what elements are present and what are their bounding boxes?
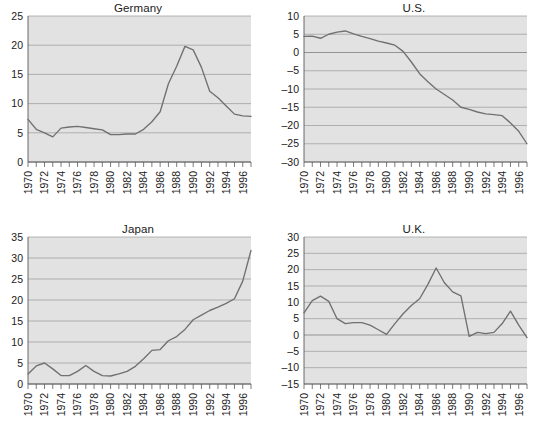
x-tick-label: 1988: [170, 171, 182, 195]
x-tick-label: 1970: [298, 393, 310, 417]
y-tick-label: –20: [281, 119, 299, 131]
x-tick-label: 1980: [104, 393, 116, 417]
x-tick-label: 1984: [413, 171, 425, 195]
panel-japan: Japan 0510152025303519701972197419761978…: [0, 221, 276, 442]
y-tick-label: –5: [287, 64, 299, 76]
plot-background: [28, 16, 251, 162]
y-tick-label: 30: [287, 231, 299, 243]
y-tick-label: –15: [281, 378, 299, 390]
x-tick-label: 1970: [22, 171, 34, 195]
x-tick-label: 1970: [22, 393, 34, 417]
x-tick-label: 1974: [331, 171, 343, 195]
x-tick-label: 1978: [88, 393, 100, 417]
plot-area-uk: –15–10–505101520253019701972197419761978…: [276, 221, 552, 443]
x-tick-label: 1986: [430, 393, 442, 417]
x-tick-label: 1996: [237, 171, 249, 195]
y-tick-label: 25: [11, 10, 23, 22]
x-tick-label: 1986: [430, 171, 442, 195]
y-tick-label: –10: [281, 361, 299, 373]
y-tick-label: –15: [281, 101, 299, 113]
y-tick-label: –5: [287, 345, 299, 357]
y-tick-label: 0: [293, 329, 299, 341]
x-tick-label: 1972: [38, 393, 50, 417]
x-tick-label: 1994: [496, 171, 508, 195]
y-tick-label: 0: [17, 378, 23, 390]
x-tick-label: 1990: [187, 171, 199, 195]
x-tick-label: 1990: [463, 393, 475, 417]
x-tick-label: 1992: [480, 171, 492, 195]
x-tick-label: 1990: [187, 393, 199, 417]
plot-background: [304, 237, 527, 384]
y-tick-label: 15: [11, 315, 23, 327]
x-tick-label: 1972: [314, 171, 326, 195]
x-tick-label: 1984: [413, 393, 425, 417]
y-tick-label: 30: [11, 252, 23, 264]
y-tick-label: 5: [293, 312, 299, 324]
x-tick-label: 1972: [314, 393, 326, 417]
plot-area-germany: 0510152025197019721974197619781980198219…: [0, 0, 276, 221]
x-tick-label: 1984: [137, 393, 149, 417]
x-tick-label: 1988: [170, 393, 182, 417]
x-tick-label: 1992: [480, 393, 492, 417]
panel-uk: U.K. –15–10–5051015202530197019721974197…: [276, 221, 552, 442]
chart-svg-japan: 0510152025303519701972197419761978198019…: [0, 221, 276, 443]
y-tick-label: 5: [17, 357, 23, 369]
chart-svg-germany: 0510152025197019721974197619781980198219…: [0, 0, 276, 221]
y-tick-label: 5: [293, 28, 299, 40]
x-tick-label: 1980: [104, 171, 116, 195]
x-tick-label: 1994: [220, 171, 232, 195]
y-tick-label: 15: [11, 68, 23, 80]
y-tick-label: 25: [11, 273, 23, 285]
x-tick-label: 1982: [397, 171, 409, 195]
x-tick-label: 1978: [364, 171, 376, 195]
plot-area-japan: 0510152025303519701972197419761978198019…: [0, 221, 276, 443]
chart-svg-uk: –15–10–505101520253019701972197419761978…: [276, 221, 552, 443]
x-tick-label: 1974: [55, 171, 67, 195]
x-tick-label: 1980: [380, 393, 392, 417]
x-tick-label: 1994: [496, 393, 508, 417]
x-tick-label: 1974: [331, 393, 343, 417]
x-tick-label: 1992: [204, 171, 216, 195]
y-tick-label: 10: [287, 10, 299, 22]
x-tick-label: 1972: [38, 171, 50, 195]
chart-svg-us: –30–25–20–15–10–505101970197219741976197…: [276, 0, 552, 221]
y-tick-label: 0: [17, 156, 23, 168]
y-tick-label: 10: [287, 296, 299, 308]
x-tick-label: 1986: [154, 393, 166, 417]
y-tick-label: –30: [281, 156, 299, 168]
four-panel-chart-figure: Germany 05101520251970197219741976197819…: [0, 0, 552, 443]
x-tick-label: 1992: [204, 393, 216, 417]
y-tick-label: 20: [287, 263, 299, 275]
y-tick-label: 20: [11, 39, 23, 51]
x-tick-label: 1980: [380, 171, 392, 195]
x-tick-label: 1982: [397, 393, 409, 417]
y-tick-label: 10: [11, 336, 23, 348]
plot-area-us: –30–25–20–15–10–505101970197219741976197…: [276, 0, 552, 221]
y-tick-label: –25: [281, 137, 299, 149]
y-tick-label: 10: [11, 97, 23, 109]
x-tick-label: 1978: [88, 171, 100, 195]
x-tick-label: 1976: [71, 171, 83, 195]
y-tick-label: 5: [17, 127, 23, 139]
x-tick-label: 1996: [513, 171, 525, 195]
x-tick-label: 1976: [347, 393, 359, 417]
x-tick-label: 1990: [463, 171, 475, 195]
x-tick-label: 1984: [137, 171, 149, 195]
y-tick-label: 0: [293, 46, 299, 58]
x-tick-label: 1978: [364, 393, 376, 417]
x-tick-label: 1974: [55, 393, 67, 417]
x-tick-label: 1986: [154, 171, 166, 195]
y-tick-label: 20: [11, 294, 23, 306]
x-tick-label: 1996: [513, 393, 525, 417]
x-tick-label: 1996: [237, 393, 249, 417]
x-tick-label: 1994: [220, 393, 232, 417]
y-tick-label: 25: [287, 247, 299, 259]
y-tick-label: 15: [287, 280, 299, 292]
x-tick-label: 1976: [347, 171, 359, 195]
y-tick-label: 35: [11, 231, 23, 243]
x-tick-label: 1988: [446, 393, 458, 417]
x-tick-label: 1982: [121, 171, 133, 195]
x-tick-label: 1976: [71, 393, 83, 417]
x-tick-label: 1982: [121, 393, 133, 417]
y-tick-label: –10: [281, 83, 299, 95]
